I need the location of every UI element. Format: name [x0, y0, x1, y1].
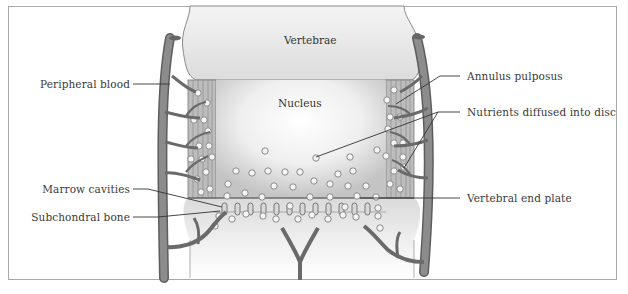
- label-marrow-cavities: Marrow cavities: [42, 183, 130, 195]
- vertebrae-label: Vertebrae: [284, 34, 337, 46]
- label-subchondral-bone: Subchondral bone: [31, 211, 130, 223]
- label-nutrients-diffused: Nutrients diffused into disc: [467, 106, 616, 118]
- label-peripheral-blood: Peripheral blood: [40, 78, 130, 90]
- label-annulus-pulposus: Annulus pulposus: [467, 70, 563, 82]
- annulus-right: [386, 80, 414, 198]
- nucleus-label: Nucleus: [278, 97, 322, 109]
- label-vertebral-end-plate: Vertebral end plate: [467, 192, 572, 204]
